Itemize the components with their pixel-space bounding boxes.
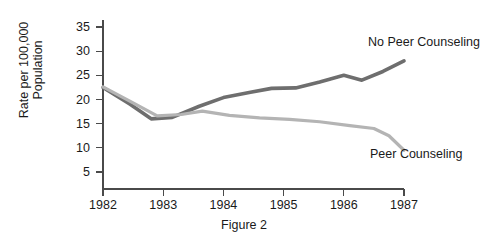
y-tick-label: 20 [58, 93, 90, 106]
x-tick-label: 1984 [209, 199, 237, 212]
x-tick-label: 1986 [330, 199, 358, 212]
series-label-peer-counseling: Peer Counseling [370, 148, 462, 161]
y-axis-title: Rate per 100,000 Population [17, 0, 45, 145]
series-label-no-peer-counseling: No Peer Counseling [368, 36, 480, 49]
x-tick-label: 1983 [149, 199, 177, 212]
y-tick-label: 30 [58, 45, 90, 58]
y-tick-label: 5 [58, 166, 90, 179]
x-tick-label: 1985 [270, 199, 298, 212]
y-tick-label: 35 [58, 21, 90, 34]
y-tick-label: 15 [58, 117, 90, 130]
figure-caption: Figure 2 [0, 218, 488, 232]
x-tick-label: 1987 [390, 199, 418, 212]
y-axis-title-line-2: Population [31, 0, 45, 145]
y-tick-label: 10 [58, 142, 90, 155]
x-tick-label: 1982 [89, 199, 117, 212]
y-axis-title-line-1: Rate per 100,000 [17, 0, 31, 145]
y-tick-label: 25 [58, 69, 90, 82]
figure-2-chart: 5101520253035198219831984198519861987 Ra… [0, 0, 488, 249]
data-series [103, 61, 404, 150]
